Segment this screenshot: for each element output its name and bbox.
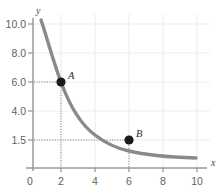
x-axis-title: x bbox=[210, 157, 216, 168]
x-tick-label-8: 8 bbox=[160, 175, 166, 187]
x-tick-label-6: 6 bbox=[126, 175, 132, 187]
chart-figure: 10.0 8.0 6.0 4.0 1.5 0 2 4 6 8 10 y x A bbox=[0, 0, 221, 195]
marker-label-b: B bbox=[136, 128, 143, 139]
marker-dot-b bbox=[124, 135, 133, 144]
y-tick-label-4: 4.0 bbox=[11, 105, 26, 117]
y-tick-label-10: 10.0 bbox=[6, 18, 27, 30]
x-tick-label-2: 2 bbox=[58, 175, 64, 187]
x-tick-label-4: 4 bbox=[92, 175, 98, 187]
marker-dot-a bbox=[56, 77, 65, 86]
x-tick-label-10: 10 bbox=[191, 175, 203, 187]
y-tick-label-8: 8.0 bbox=[11, 47, 26, 59]
x-tick-label-0: 0 bbox=[27, 175, 33, 187]
y-tick-label-1-5: 1.5 bbox=[11, 134, 26, 146]
y-axis-title: y bbox=[35, 5, 41, 16]
marker-label-a: A bbox=[67, 70, 75, 81]
chart-plot-area: 10.0 8.0 6.0 4.0 1.5 0 2 4 6 8 10 y x A bbox=[0, 0, 221, 195]
y-tick-label-6: 6.0 bbox=[11, 76, 26, 88]
